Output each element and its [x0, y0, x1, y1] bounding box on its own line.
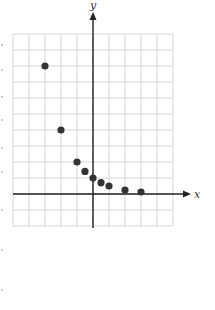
data-point — [41, 62, 48, 69]
y-axis-label: y — [89, 0, 97, 12]
data-point — [105, 182, 112, 189]
x-axis-arrow-icon — [183, 191, 191, 198]
data-point — [81, 168, 88, 175]
x-axis-label: x — [194, 188, 201, 201]
data-point — [121, 186, 128, 193]
y-axis-arrow-icon — [90, 12, 97, 20]
data-point — [97, 179, 104, 186]
data-point — [57, 126, 64, 133]
data-point — [89, 174, 96, 181]
data-point — [73, 158, 80, 165]
margin-marks — [1, 45, 3, 290]
scatter-plot: x y — [0, 0, 215, 310]
data-point — [137, 188, 144, 195]
